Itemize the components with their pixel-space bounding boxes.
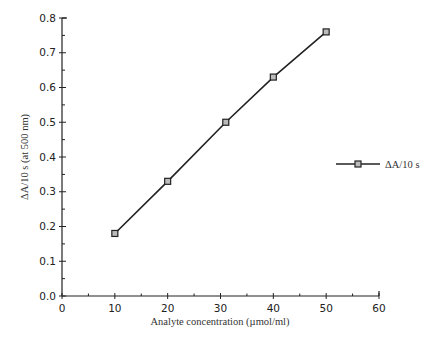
y-tick-label: 0.0	[39, 290, 56, 302]
legend-label: ΔA/10 s	[385, 159, 419, 170]
square-marker-icon	[112, 230, 118, 236]
x-tick-label: 10	[108, 302, 121, 314]
y-tick-label: 0.4	[39, 151, 56, 163]
square-marker-icon	[270, 74, 276, 80]
series-line	[115, 32, 326, 234]
x-tick-label: 30	[214, 302, 227, 314]
y-tick-label: 0.5	[39, 116, 56, 128]
x-axis: 0102030405060	[59, 291, 386, 314]
square-marker-icon	[165, 178, 171, 184]
y-tick-label: 0.1	[39, 255, 56, 267]
data-series	[112, 29, 329, 237]
line-chart: 0.00.10.20.30.40.50.60.70.8 010203040506…	[0, 0, 436, 344]
x-tick-label: 50	[319, 302, 332, 314]
x-tick-label: 0	[59, 302, 66, 314]
x-tick-label: 20	[161, 302, 174, 314]
square-marker-icon	[323, 29, 329, 35]
y-axis-title: ΔA/10 s (at 500 nm)	[19, 113, 31, 200]
x-tick-label: 40	[267, 302, 280, 314]
legend: ΔA/10 s	[336, 159, 419, 170]
x-axis-title: Analyte concentration (µmol/ml)	[150, 316, 290, 328]
y-tick-label: 0.7	[39, 46, 56, 58]
x-tick-label: 60	[372, 302, 385, 314]
y-tick-label: 0.3	[39, 185, 56, 197]
y-axis: 0.00.10.20.30.40.50.60.70.8	[39, 12, 67, 302]
square-marker-icon	[223, 119, 229, 125]
y-tick-label: 0.2	[39, 220, 56, 232]
legend-square-marker-icon	[355, 161, 361, 167]
y-tick-label: 0.8	[39, 12, 56, 24]
y-tick-label: 0.6	[39, 81, 56, 93]
